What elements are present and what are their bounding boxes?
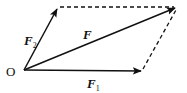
vector-f2-subscript: 2 <box>33 41 37 50</box>
origin-label: O <box>6 64 15 79</box>
vector-f-resultant-arrow <box>24 8 175 70</box>
vector-f1-subscript: 1 <box>96 84 100 93</box>
vector-f2-letter: F <box>23 33 33 48</box>
vector-f-label: F <box>82 27 92 42</box>
vector-parallelogram-diagram: O F2 F F1 <box>0 0 187 93</box>
vector-f2-label: F2 <box>23 33 37 50</box>
vector-f1-arrow <box>24 70 141 71</box>
vector-f1-letter: F <box>86 76 96 91</box>
vector-f1-label: F1 <box>86 76 100 93</box>
